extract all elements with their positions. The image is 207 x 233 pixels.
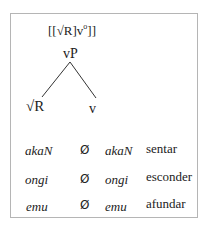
tree-node-v: v xyxy=(89,101,96,117)
left-branch xyxy=(42,62,70,97)
row-form: emu xyxy=(105,199,127,215)
row-gloss: esconder xyxy=(146,169,192,185)
row-affix: Ø xyxy=(80,198,89,212)
row-gloss: sentar xyxy=(146,141,177,157)
tree-node-vp: vP xyxy=(63,46,78,62)
row-form: akaN xyxy=(105,143,132,159)
row-affix: Ø xyxy=(80,172,89,186)
row-gloss: afundar xyxy=(146,196,186,212)
row-root: akaN xyxy=(25,143,52,159)
tree-node-root: √R xyxy=(26,98,44,115)
row-root: ongi xyxy=(25,172,48,188)
right-branch xyxy=(70,62,96,98)
row-affix: Ø xyxy=(80,143,89,157)
row-form: ongi xyxy=(105,172,128,188)
row-root: emu xyxy=(26,199,48,215)
